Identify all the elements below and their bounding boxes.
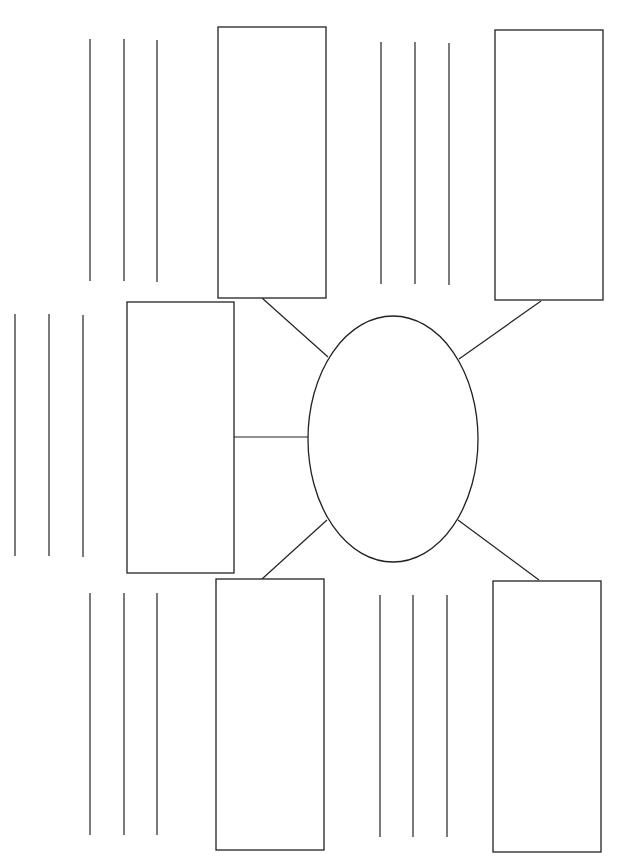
box-top-right[interactable] [495,30,603,300]
connector-top-left [262,298,328,357]
connector-top-right [459,301,541,359]
box-top-left[interactable] [218,27,326,298]
box-bottom-left[interactable] [216,579,324,850]
center-oval[interactable] [308,316,478,562]
connector-bottom-right [458,520,539,580]
box-middle-left[interactable] [127,302,234,573]
connector-bottom-left [262,520,327,579]
box-bottom-right[interactable] [493,581,601,852]
graphic-organizer [0,0,618,863]
